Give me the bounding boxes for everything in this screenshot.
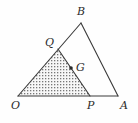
vertex-label-O: O [11,100,20,111]
point-marker-G [69,66,73,70]
vertex-label-B: B [77,6,85,17]
figure-canvas [0,0,138,123]
vertex-label-P: P [87,100,94,111]
vertex-label-A: A [120,100,128,111]
vertex-label-G: G [76,62,85,73]
vertex-label-Q: Q [45,37,54,48]
segment-side-BA [81,23,118,96]
geometry-figure: O A B P Q G [0,0,138,123]
